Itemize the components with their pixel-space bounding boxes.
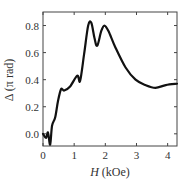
y-tick-label: 0.2 [25,101,39,113]
x-tick-label: 2 [103,149,109,161]
x-tick-label: 3 [134,149,140,161]
x-tick-labels: 01234 [40,149,171,161]
y-tick-label: 0.0 [25,128,39,140]
x-tick-label: 0 [40,149,46,161]
data-line [43,21,177,144]
y-axis-label: Δ (π rad) [2,59,16,101]
x-axis-label: H(kOe) [89,165,130,179]
y-tick-label: 0.4 [25,74,39,86]
x-tick-label: 4 [165,149,171,161]
x-tick-label: 1 [71,149,77,161]
y-tick-labels: 0.00.20.40.60.8 [25,20,39,140]
y-tick-label: 0.6 [25,47,39,59]
line-chart: 01234 0.00.20.40.60.8 H(kOe) Δ (π rad) [0,0,189,187]
y-tick-label: 0.8 [25,20,39,32]
